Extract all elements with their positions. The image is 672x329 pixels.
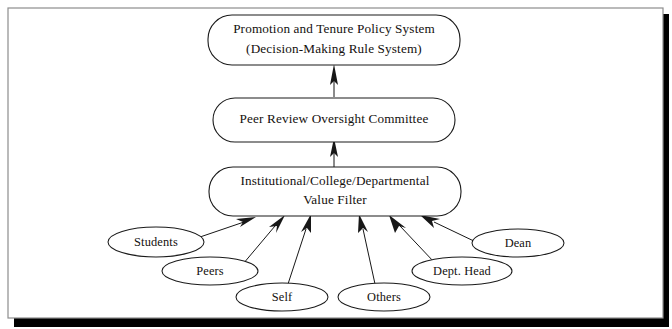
node-dept-head[interactable]: Dept. Head [412,257,512,285]
dean-label: Dean [505,236,532,250]
node-oversight-committee[interactable]: Peer Review Oversight Committee [213,98,455,142]
dept-head-label: Dept. Head [433,264,492,278]
node-dean[interactable]: Dean [472,229,564,257]
node-policy-system[interactable]: Promotion and Tenure Policy System (Deci… [208,15,460,65]
promotion-tenure-diagram: Promotion and Tenure Policy System (Deci… [0,0,672,329]
policy-system-label-line-2: (Decision-Making Rule System) [246,41,422,56]
node-students[interactable]: Students [108,227,204,257]
peers-label: Peers [196,264,224,278]
self-label: Self [272,290,293,304]
policy-system-label-line-1: Promotion and Tenure Policy System [233,21,435,36]
node-self[interactable]: Self [236,283,328,311]
node-peers[interactable]: Peers [162,257,258,285]
students-label: Students [134,235,178,249]
diagram-canvas: Promotion and Tenure Policy System (Deci… [0,0,672,329]
others-label: Others [367,290,401,304]
oversight-committee-label: Peer Review Oversight Committee [240,111,429,126]
value-filter-label-line-2: Value Filter [303,192,367,207]
value-filter-label-line-1: Institutional/College/Departmental [241,173,430,188]
node-others[interactable]: Others [338,283,430,311]
node-value-filter[interactable]: Institutional/College/Departmental Value… [209,167,461,216]
